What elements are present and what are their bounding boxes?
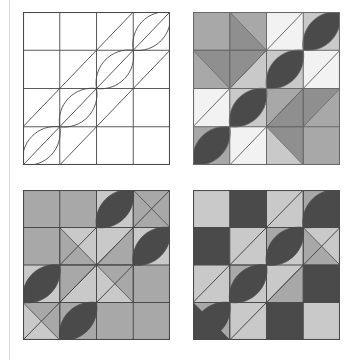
pattern-cell [303,265,340,303]
panel-top-right [193,12,340,165]
panel-top-left-canvas [23,12,170,165]
pattern-cell [303,127,340,165]
pattern-cell [303,303,340,341]
panel-bottom-left-canvas [23,190,170,340]
panel-bottom-right [193,190,340,340]
pattern-cell [193,228,230,266]
pattern-plate [0,0,353,360]
pattern-cell [267,303,304,341]
pattern-cell [230,190,267,228]
panel-top-left [23,12,170,165]
pattern-cell [193,190,230,228]
pattern-cell [97,303,134,341]
pattern-cell [193,12,230,50]
panel-top-right-canvas [193,12,340,165]
panel-bottom-left [23,190,170,340]
pattern-cell [133,303,170,341]
pattern-cell [60,190,97,228]
pattern-cell [23,190,60,228]
panel-bottom-right-canvas [193,190,340,340]
left-margin-rule [9,0,10,360]
pattern-cell [23,228,60,266]
pattern-cell [133,265,170,303]
